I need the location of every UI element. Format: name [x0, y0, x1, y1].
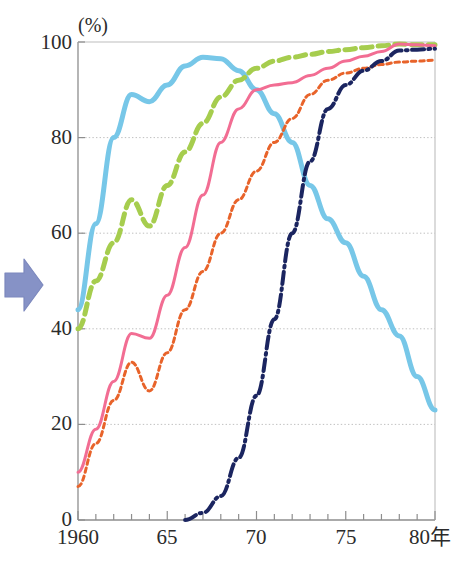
axis-ticks	[78, 42, 435, 520]
x-tick-70: 70	[246, 527, 267, 548]
series-line-light-blue-solid	[78, 57, 435, 410]
plot-canvas	[0, 0, 459, 573]
x-tick-65: 65	[157, 527, 178, 548]
x-tick-75: 75	[336, 527, 357, 548]
chart-figure: (%) 100 80 60 40 20 0 1960 65 70 75 80年	[0, 0, 459, 573]
series-line-pink-solid	[78, 44, 435, 472]
gridlines	[78, 138, 435, 425]
data-series	[78, 44, 435, 520]
series-line-orange-dotted	[78, 60, 435, 486]
x-tick-80: 80年	[409, 527, 451, 548]
x-tick-1960: 1960	[57, 527, 99, 548]
series-line-navy-dashdot	[185, 49, 435, 520]
x-axis-tick-labels: 1960 65 70 75 80年	[0, 527, 459, 567]
axes	[78, 42, 435, 520]
series-line-green-dashed	[78, 44, 435, 329]
